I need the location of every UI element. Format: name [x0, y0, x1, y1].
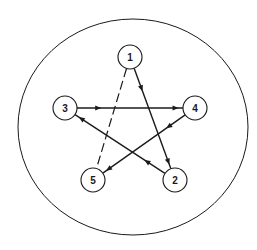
arrowhead-icon [138, 85, 143, 92]
pentagram-graph-diagram: 12345 [0, 0, 257, 250]
node-label: 5 [90, 175, 96, 186]
arrowhead-icon [144, 160, 150, 165]
edge-2-3 [75, 115, 165, 174]
node-2: 2 [163, 168, 187, 192]
arrowhead-icon [173, 105, 179, 110]
dashed-edge-line [96, 68, 126, 168]
edge-1-2 [134, 68, 171, 168]
arrowhead-icon [165, 158, 170, 165]
edge-3-4 [77, 105, 183, 110]
arrowhead-icon [166, 123, 172, 129]
node-label: 1 [127, 52, 133, 63]
node-label: 2 [172, 175, 178, 186]
arrowhead-icon [106, 165, 112, 171]
node-5: 5 [81, 168, 105, 192]
arrowhead-icon [95, 105, 101, 110]
node-label: 4 [192, 103, 198, 114]
edge-1-5 [96, 68, 126, 168]
node-3: 3 [53, 96, 77, 120]
edge-4-5 [103, 115, 185, 173]
edge-line [103, 115, 185, 173]
nodes-group: 12345 [53, 45, 207, 192]
node-4: 4 [183, 96, 207, 120]
node-1: 1 [118, 45, 142, 69]
edge-line [134, 68, 171, 168]
arrowhead-icon [79, 117, 85, 122]
node-label: 3 [62, 103, 68, 114]
edge-line [75, 115, 165, 174]
edges-group [75, 68, 185, 173]
